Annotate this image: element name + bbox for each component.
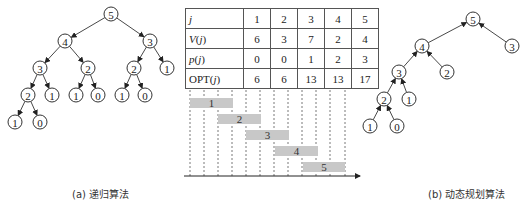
- recursion-tree: 543322121101010: [8, 7, 174, 129]
- interval-bar: 4: [275, 145, 318, 157]
- interval-bar: 2: [218, 113, 261, 125]
- tree-edge-arrow: [138, 47, 147, 62]
- node-label: 0: [142, 90, 148, 102]
- node-label: 4: [419, 41, 425, 53]
- tree-edge-arrow: [43, 74, 49, 88]
- interval-label: 1: [209, 97, 215, 109]
- tree-edge-arrow: [79, 74, 85, 88]
- tree-node: 2: [21, 88, 35, 102]
- node-label: 3: [147, 36, 153, 48]
- node-label: 2: [131, 63, 137, 75]
- table-cell: 5: [352, 9, 379, 29]
- interval-schedule: 12345: [184, 90, 360, 176]
- tree-node: 1: [115, 88, 129, 102]
- node-label: 1: [49, 90, 55, 102]
- table-cell: 17: [352, 69, 379, 89]
- node-label: 0: [394, 121, 400, 133]
- node-label: 0: [95, 90, 101, 102]
- tree-edge-arrow: [479, 23, 506, 42]
- tree-edge-arrow: [387, 79, 395, 93]
- table-cell: 3: [298, 9, 325, 29]
- tree-edge-arrow: [402, 79, 407, 92]
- node-label: 5: [108, 9, 114, 21]
- interval-bar: 5: [303, 161, 345, 173]
- tree-edge-arrow: [137, 74, 143, 88]
- table-row: p(j)00123: [186, 49, 379, 69]
- interval-label: 2: [237, 113, 243, 125]
- tree-edge-arrow: [404, 52, 417, 67]
- node-label: 0: [37, 117, 43, 129]
- tree-edge-arrow: [70, 46, 84, 62]
- table-row: V(j)63724: [186, 29, 379, 49]
- tree-node: 1: [8, 115, 22, 129]
- interval-label: 4: [294, 145, 300, 157]
- interval-label: 5: [321, 161, 327, 173]
- table-cell: 1: [244, 9, 271, 29]
- caption-recursive: (a) 递归算法: [72, 186, 129, 201]
- tree-node: 1: [69, 88, 83, 102]
- tree-node: 5: [466, 12, 480, 26]
- node-label: 2: [85, 63, 91, 75]
- node-label: 1: [12, 117, 18, 129]
- row-header: j: [186, 9, 244, 29]
- tree-edge-arrow: [31, 101, 37, 115]
- tree-edge-arrow: [125, 74, 131, 88]
- node-label: 2: [25, 90, 31, 102]
- dp-table: j12345V(j)63724p(j)00123OPT(j)66131317: [185, 8, 379, 89]
- node-label: 2: [444, 67, 450, 79]
- table-cell: 3: [271, 29, 298, 49]
- table-cell: 7: [298, 29, 325, 49]
- table-cell: 13: [298, 69, 325, 89]
- tree-edge-arrow: [18, 101, 25, 115]
- tree-node: 0: [33, 115, 47, 129]
- tree-edge-arrow: [117, 18, 144, 37]
- node-label: 2: [381, 94, 387, 106]
- table-cell: 3: [352, 49, 379, 69]
- tree-node: 4: [58, 34, 72, 48]
- node-label: 1: [406, 94, 412, 106]
- table-cell: 2: [325, 29, 352, 49]
- table-cell: 6: [271, 69, 298, 89]
- table-cell: 2: [271, 9, 298, 29]
- table-row: OPT(j)66131317: [186, 69, 379, 89]
- tree-edge-arrow: [154, 47, 163, 62]
- tree-node: 1: [363, 119, 377, 133]
- interval-bar: 1: [190, 97, 233, 109]
- node-label: 5: [470, 14, 476, 26]
- node-label: 1: [119, 90, 125, 102]
- tree-node: 2: [440, 65, 454, 79]
- tree-node: 2: [127, 61, 141, 75]
- table-cell: 6: [244, 69, 271, 89]
- row-header: p(j): [186, 49, 244, 69]
- row-header: OPT(j): [186, 69, 244, 89]
- tree-node: 2: [377, 92, 391, 106]
- table-cell: 0: [271, 49, 298, 69]
- tree-edge-arrow: [428, 23, 466, 43]
- interval-bar: 3: [246, 129, 289, 141]
- tree-node: 3: [143, 34, 157, 48]
- table-cell: 0: [244, 49, 271, 69]
- tree-node: 2: [81, 61, 95, 75]
- table-cell: 6: [244, 29, 271, 49]
- node-label: 1: [73, 90, 79, 102]
- tree-node: 0: [91, 88, 105, 102]
- table-cell: 2: [325, 49, 352, 69]
- tree-edge-arrow: [373, 106, 380, 120]
- table-cell: 4: [352, 29, 379, 49]
- row-header: V(j): [186, 29, 244, 49]
- tree-node: 3: [33, 61, 47, 75]
- tree-node: 0: [390, 119, 404, 133]
- interval-label: 3: [265, 129, 271, 141]
- tree-edge-arrow: [71, 18, 104, 38]
- node-label: 1: [367, 121, 373, 133]
- node-label: 3: [509, 41, 515, 53]
- tree-node: 5: [104, 7, 118, 21]
- node-label: 3: [37, 63, 43, 75]
- node-label: 1: [164, 63, 170, 75]
- table-row: j12345: [186, 9, 379, 29]
- tree-node: 3: [392, 65, 406, 79]
- tree-node: 1: [45, 88, 59, 102]
- node-label: 3: [396, 67, 402, 79]
- tree-edge-arrow: [427, 51, 442, 67]
- tree-edge-arrow: [31, 74, 37, 88]
